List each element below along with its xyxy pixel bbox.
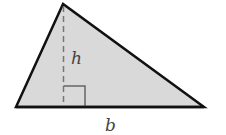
base-label: b <box>105 115 116 135</box>
triangle <box>16 4 204 107</box>
height-label: h <box>71 48 82 68</box>
triangle-diagram: h b <box>0 0 226 135</box>
